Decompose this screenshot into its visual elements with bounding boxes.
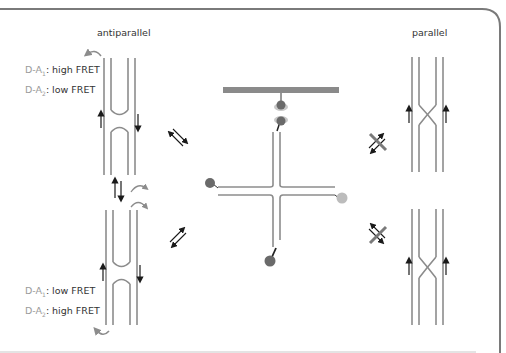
four-way-junction (218, 132, 335, 247)
equilibrium-arrows-left-bottom (170, 229, 186, 246)
rotation-arrows (131, 186, 146, 207)
fret-line-1: D-A1: low FRET (25, 285, 100, 301)
antiparallel-bottom-junction (96, 210, 137, 334)
antiparallel-label: antiparallel (97, 27, 151, 38)
parallel-label: parallel (412, 27, 447, 38)
holliday-junction-figure: antiparallel parallel D-A1: high FRET D-… (0, 0, 506, 353)
strand-direction-arrows-bottom (103, 265, 140, 281)
acceptor-dye-right (335, 193, 348, 204)
donor-dye-left (205, 178, 218, 188)
fret-state-bottom: D-A1: low FRET D-A2: high FRET (25, 285, 100, 321)
blocked-equilibrium-right-bottom (369, 225, 386, 243)
equilibrium-arrows-left-top (170, 129, 186, 146)
strand-direction-arrows (101, 113, 138, 129)
fret-line-2: D-A2: low FRET (25, 84, 100, 100)
parallel-top-junction (412, 57, 443, 172)
blocked-equilibrium-right-top (369, 134, 386, 152)
fret-line-2: D-A2: high FRET (25, 305, 100, 321)
surface (223, 87, 339, 93)
antiparallel-interconversion-arrows (115, 180, 121, 199)
parallel-bottom-junction (412, 209, 443, 325)
tether (274, 93, 288, 131)
donor-dye-bottom (265, 248, 277, 267)
fret-line-1: D-A1: high FRET (25, 64, 100, 80)
fret-state-top: D-A1: high FRET D-A2: low FRET (25, 64, 100, 100)
